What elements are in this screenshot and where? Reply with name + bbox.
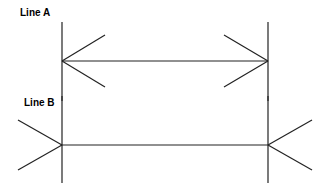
line-b-left-fin-upper (18, 120, 62, 145)
line-b-right-fin-upper (268, 120, 312, 145)
line-b-right-fin-lower (268, 145, 312, 170)
line-a-right-fin-upper (224, 35, 268, 61)
line-a-figure (62, 22, 268, 101)
line-a-right-fin-lower (224, 61, 268, 87)
line-a-left-fin-upper (62, 35, 105, 61)
line-b-left-fin-lower (18, 145, 62, 170)
muller-lyer-diagram (0, 0, 326, 192)
line-b-figure (18, 96, 312, 183)
line-a-left-fin-lower (62, 61, 105, 87)
